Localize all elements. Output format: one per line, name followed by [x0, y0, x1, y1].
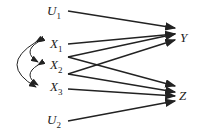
node-u2: U2 [47, 113, 61, 130]
edge-u2-z [68, 101, 175, 121]
edge-x1-y [68, 34, 175, 44]
node-u1: U1 [47, 4, 61, 21]
edge-x3-z [68, 89, 175, 96]
edge-u1-y [68, 11, 175, 28]
path-diagram: U1 X1 X2 X3 U2 Y Z [0, 0, 199, 132]
corr-x1-x3 [17, 42, 36, 87]
node-x2: X2 [50, 58, 62, 75]
node-x1: X1 [50, 37, 62, 54]
node-x3: X3 [50, 80, 62, 97]
edge-x1-z [68, 57, 175, 86]
diagram-edges [0, 0, 199, 132]
node-y: Y [180, 31, 187, 44]
edge-x2-z [68, 74, 175, 92]
corr-x2-x3 [30, 65, 38, 85]
node-z: Z [179, 89, 186, 102]
